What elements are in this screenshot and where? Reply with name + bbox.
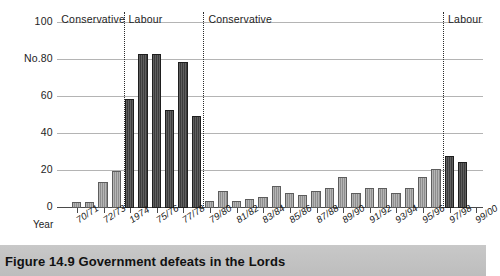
bar [138, 54, 147, 208]
bar [232, 201, 241, 208]
bar [391, 193, 400, 208]
bar [418, 177, 427, 208]
figure-caption: Figure 14.9 Government defeats in the Lo… [5, 254, 285, 269]
bar [98, 182, 107, 208]
bar [365, 188, 374, 208]
bar [125, 99, 134, 208]
y-tick-label-0: 0 [27, 200, 53, 212]
bar [445, 156, 454, 208]
y-tick-label-100: 100 [27, 15, 53, 27]
bar [165, 110, 174, 208]
bar [311, 191, 320, 208]
x-axis-title: Year [33, 219, 53, 230]
bar-group [57, 12, 483, 208]
bar [152, 54, 161, 208]
chart-area: No. 020406080100 ConservativeLabourConse… [0, 0, 486, 236]
y-tick-label-80: 80 [27, 52, 53, 64]
bar [458, 162, 467, 208]
bar [258, 197, 267, 208]
bar [178, 62, 187, 208]
y-tick-label-20: 20 [27, 163, 53, 175]
bar [205, 201, 214, 208]
y-tick-label-60: 60 [27, 89, 53, 101]
bar [192, 116, 201, 209]
bar [338, 177, 347, 208]
y-tick-label-40: 40 [27, 126, 53, 138]
bar [285, 193, 294, 208]
